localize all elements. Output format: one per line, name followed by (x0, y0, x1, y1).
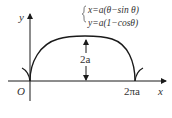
height-label: 2a (80, 53, 91, 65)
equation-y: y=a(1−cosθ) (87, 18, 138, 29)
y-axis-label: y (18, 11, 24, 23)
cycloid-diagram: y x O 2πa 2a x=a(θ−sin θ) y=a(1−cosθ) (0, 0, 172, 118)
cycloid-left-tail (22, 68, 30, 81)
end-label: 2πa (124, 85, 140, 97)
equation-x: x=a(θ−sin θ) (87, 5, 139, 16)
cycloid-right-tail (135, 68, 143, 81)
origin-label: O (17, 85, 25, 97)
equation-brace (82, 6, 86, 22)
x-axis-label: x (157, 85, 163, 97)
